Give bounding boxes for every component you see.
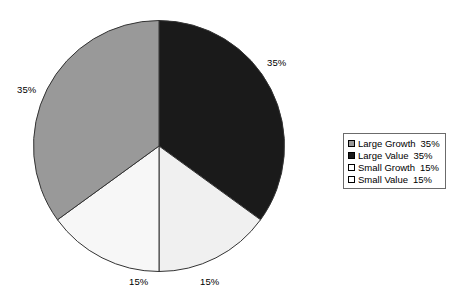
legend-swatch-icon: [348, 152, 355, 159]
legend-swatch-icon: [348, 140, 355, 147]
legend-item-small-growth[interactable]: Small Growth 15%: [348, 161, 440, 173]
legend-item-label: Large Value: [358, 150, 409, 161]
pie-chart-figure: 35% 15% 15% 35% Large Growth 35% Large V…: [0, 0, 468, 303]
pie-slice-value-label-small-value: 15%: [200, 276, 219, 287]
legend-item-value: 35%: [414, 150, 433, 161]
legend-item-label: Small Value: [358, 174, 408, 185]
legend-item-value: 15%: [413, 174, 432, 185]
legend-swatch-icon: [348, 176, 355, 183]
legend-item-large-value[interactable]: Large Value 35%: [348, 149, 440, 161]
pie-slice-value-label-small-growth: 15%: [129, 276, 148, 287]
legend-item-small-value[interactable]: Small Value 15%: [348, 173, 440, 185]
legend-item-label: Large Growth: [358, 138, 416, 149]
legend-item-label: Small Growth: [358, 162, 415, 173]
legend-item-value: 15%: [420, 162, 439, 173]
chart-legend: Large Growth 35% Large Value 35% Small G…: [343, 133, 446, 189]
legend-item-value: 35%: [421, 138, 440, 149]
legend-swatch-icon: [348, 164, 355, 171]
pie-slices: [33, 21, 284, 272]
pie-slice-value-label-large-growth: 35%: [17, 84, 36, 95]
pie-slice-value-label-large-value: 35%: [267, 57, 286, 68]
legend-item-large-growth[interactable]: Large Growth 35%: [348, 137, 440, 149]
